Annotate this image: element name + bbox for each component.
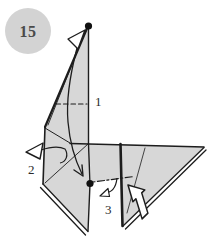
fold-label-1: 1: [95, 94, 102, 109]
top-reference-dot: [85, 22, 92, 29]
origami-step-diagram: 15: [0, 0, 214, 242]
fold-label-3: 3: [105, 202, 112, 217]
pull-out-arrowhead-icon: [26, 143, 43, 159]
paper-shape: [43, 27, 204, 231]
tail-flap-region: [120, 144, 204, 226]
step-badge: 15: [5, 8, 51, 54]
bottom-reference-dot: [86, 180, 93, 187]
origami-diagram-canvas: 15: [0, 0, 214, 242]
tuck-hook-arrowhead-icon: [100, 189, 110, 197]
step-number: 15: [20, 23, 37, 40]
center-strip-region: [89, 144, 120, 182]
neck-flap-region: [45, 27, 89, 143]
fold-label-2: 2: [28, 162, 35, 177]
